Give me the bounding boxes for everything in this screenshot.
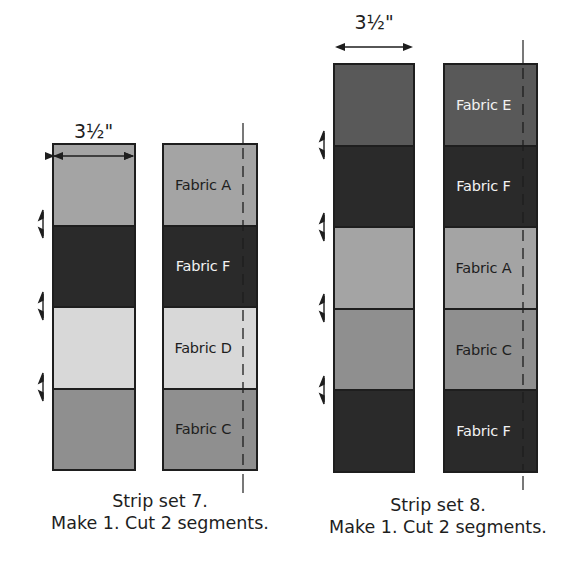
set7-dimension-arrow-icon — [53, 152, 134, 160]
set8-dimension-arrow-icon — [335, 43, 413, 51]
set8-pressing-arrows-icon — [320, 131, 324, 404]
diagram-overlay — [0, 0, 576, 576]
set7-pressing-arrows-icon — [39, 210, 43, 401]
